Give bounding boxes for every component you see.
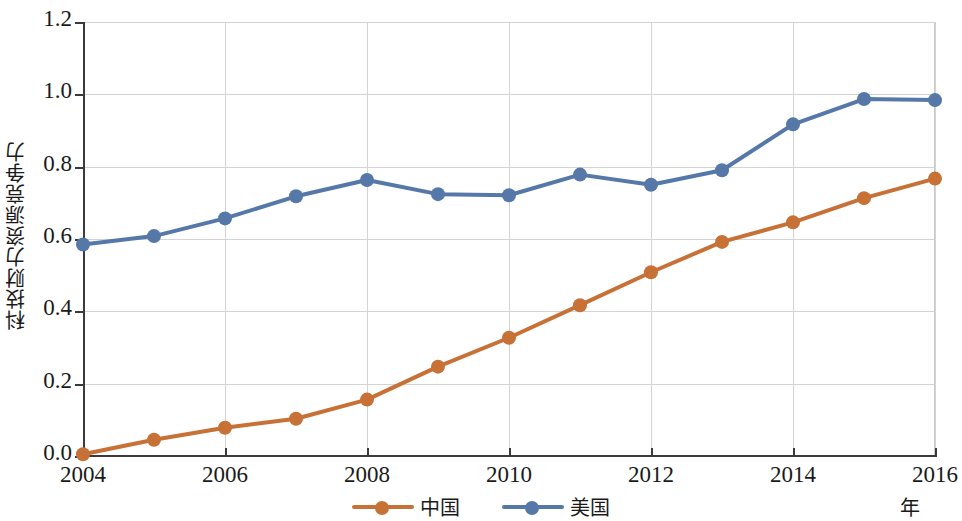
gridline-vertical (793, 22, 794, 456)
y-tick-label: 0.4 (2, 295, 72, 321)
x-tick-mark (509, 448, 511, 457)
x-tick-label: 2012 (606, 462, 696, 488)
x-tick-label: 2010 (464, 462, 554, 488)
x-tick-label: 2006 (180, 462, 270, 488)
y-tick-mark (75, 94, 84, 96)
x-tick-label: 2008 (322, 462, 412, 488)
gridline-vertical (509, 22, 510, 456)
chart-container: 科技财力资源竞争力 0.00.20.40.60.81.01.2 20042006… (0, 0, 962, 521)
y-tick-label: 0.2 (2, 368, 72, 394)
x-tick-label: 2014 (748, 462, 838, 488)
legend-label-usa: 美国 (570, 492, 610, 521)
y-tick-label: 1.2 (2, 6, 72, 32)
x-tick-mark (793, 448, 795, 457)
y-tick-label: 0.8 (2, 151, 72, 177)
y-tick-mark (75, 384, 84, 386)
chart-legend: 中国 美国 (0, 492, 962, 521)
x-tick-mark (83, 448, 85, 457)
gridline-vertical (225, 22, 226, 456)
y-tick-label: 0.6 (2, 223, 72, 249)
x-tick-mark (225, 448, 227, 457)
legend-label-china: 中国 (420, 492, 460, 521)
x-tick-mark (935, 448, 937, 457)
legend-item-usa[interactable]: 美国 (502, 492, 610, 521)
legend-item-china[interactable]: 中国 (352, 492, 460, 521)
y-tick-mark (75, 22, 84, 24)
y-tick-mark (75, 239, 84, 241)
gridline-vertical (367, 22, 368, 456)
x-tick-mark (367, 448, 369, 457)
x-tick-label: 2004 (38, 462, 128, 488)
legend-swatch-china-icon (352, 499, 414, 515)
gridline-vertical (651, 22, 652, 456)
plot-area (83, 22, 935, 456)
x-tick-mark (651, 448, 653, 457)
y-tick-mark (75, 311, 84, 313)
y-tick-mark (75, 167, 84, 169)
legend-swatch-usa-icon (502, 499, 564, 515)
y-tick-label: 1.0 (2, 78, 72, 104)
gridline-vertical (935, 22, 936, 456)
x-tick-label: 2016 (890, 462, 962, 488)
